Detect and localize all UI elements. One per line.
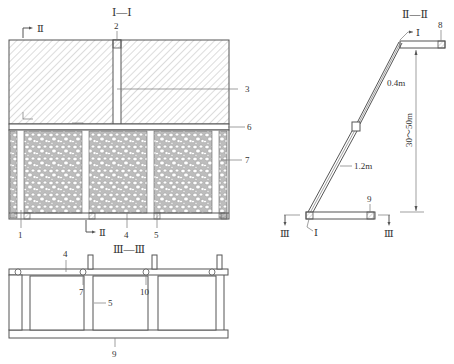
dim-lower-width: 1.2m [354,161,372,171]
anchor-circle [143,269,149,275]
anchor-head-9 [367,212,374,219]
callout-1: 1 [18,230,23,240]
callout-6: 6 [247,122,252,132]
callout-8: 8 [438,20,443,30]
anchor-circle [209,269,215,275]
cut-marker-ii-bottom: Ⅱ [86,220,106,238]
gravel-cell-2 [89,131,147,213]
svg-text:Ⅰ: Ⅰ [416,27,420,38]
callout-5: 5 [154,230,159,240]
section-i-title: Ⅰ—Ⅰ [112,6,132,18]
horizontal-beam-6 [9,124,229,130]
cut-marker-ii-top: Ⅱ [23,23,44,38]
height-dimension: 30～50m [400,50,424,212]
callout-iii-9: 9 [112,349,117,359]
section-iii-title: Ⅲ—Ⅲ [113,243,145,255]
cut-marker-iii-right: Ⅲ [384,228,394,239]
callout-iii-10: 10 [140,287,150,297]
callout-3: 3 [245,84,250,94]
section-iii-iii: Ⅲ—Ⅲ 4 7 10 5 9 [9,243,228,359]
cut-marker-iii-left: Ⅲ [280,228,290,239]
anchor-head-8 [438,41,445,48]
callout-iii-5: 5 [108,298,113,308]
dim-height: 30～50m [404,113,414,147]
svg-text:Ⅱ: Ⅱ [99,227,106,238]
anchor-circle [80,269,86,275]
anchor-head-2 [113,40,121,48]
dim-upper-width: 0.4m [387,78,405,88]
callout-2: 2 [114,21,119,31]
gravel-cell-1 [24,131,82,213]
callout-4: 4 [124,230,129,240]
callout-9: 9 [367,194,372,204]
anchor-circle [15,269,21,275]
drawing-canvas: Ⅰ—Ⅰ Ⅱ 2 3 6 [0,0,454,364]
cut-marker-i-bottom: Ⅰ [314,227,318,238]
callout-iii-4: 4 [63,249,68,259]
lower-slope-beam [308,131,357,212]
section-i-i: Ⅰ—Ⅰ Ⅱ 2 3 6 [9,6,252,240]
gravel-cell-3 [154,131,212,213]
svg-text:Ⅱ: Ⅱ [37,23,44,34]
callout-7: 7 [245,155,250,165]
section-ii-title: Ⅱ—Ⅱ [402,8,428,20]
gravel-grid [9,130,229,219]
anchor-beam [113,40,121,124]
section-ii-ii: Ⅱ—Ⅱ 8 Ⅰ 0.4m 1.2m [280,8,445,239]
callout-iii-7: 7 [79,287,84,297]
